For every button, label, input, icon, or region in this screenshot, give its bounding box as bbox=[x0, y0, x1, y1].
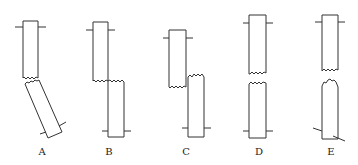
figure-a-label: A bbox=[37, 146, 46, 157]
fracture-diagram: A B C D E bbox=[0, 0, 358, 165]
figure-c-label: C bbox=[182, 146, 190, 157]
figure-b: B bbox=[86, 22, 131, 157]
figure-a-upper-segment bbox=[23, 21, 38, 79]
figure-e: E bbox=[313, 15, 345, 157]
figure-a-lower-right-tick bbox=[59, 122, 66, 126]
figure-e-label: E bbox=[327, 146, 334, 157]
figure-e-upper-segment bbox=[322, 15, 338, 71]
figure-e-lower-segment bbox=[322, 79, 338, 139]
figure-b-upper-segment bbox=[93, 22, 108, 82]
figure-c-upper-segment bbox=[169, 30, 186, 88]
figure-c: C bbox=[163, 30, 211, 157]
figure-e-lower-left-tick bbox=[313, 128, 322, 131]
figure-d-lower-segment bbox=[249, 82, 266, 138]
figure-b-lower-segment bbox=[108, 80, 124, 137]
figure-d-label: D bbox=[255, 146, 263, 157]
figure-d-upper-segment bbox=[249, 15, 266, 74]
figure-a: A bbox=[15, 21, 66, 157]
figure-b-label: B bbox=[105, 146, 112, 157]
figure-c-lower-segment bbox=[188, 74, 204, 137]
figure-a-lower-left-tick bbox=[40, 132, 46, 134]
figure-d: D bbox=[243, 15, 273, 157]
figure-a-lower-segment bbox=[25, 80, 62, 138]
